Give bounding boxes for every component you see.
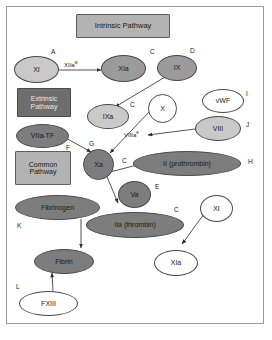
node-xia-top: XIa <box>101 55 146 82</box>
node-fibrinogen-label: Fibrinogen <box>41 204 74 211</box>
extrinsic-pathway-box: Extrinsic Pathway <box>17 88 71 117</box>
node-xa-label: Xa <box>94 161 103 168</box>
edge-label-viiia-text: VIIIa <box>124 132 136 138</box>
node-vwf-label: vWF <box>216 97 230 104</box>
node-xia-top-label: XIa <box>118 65 129 72</box>
node-prothrombin-label: II (prothrombin) <box>163 160 211 167</box>
node-xi-label: XI <box>33 66 40 73</box>
edge-thrombin-to-xia <box>182 213 205 244</box>
node-ix: IX <box>157 55 197 81</box>
edge-label-xiia-text: XIIa <box>64 62 75 68</box>
node-vwf: vWF <box>202 89 244 113</box>
node-xa: Xa <box>83 149 114 180</box>
annotation-a: A <box>51 48 56 55</box>
edge-label-xiia-sup: B <box>75 60 78 65</box>
edge-prothrombin-to-xa <box>110 165 137 172</box>
node-fxiii: FXIII <box>19 291 78 316</box>
node-viia-tf: VIIa-TF <box>16 124 69 148</box>
extrinsic-pathway-label: Extrinsic Pathway <box>20 95 68 110</box>
edge-label-xiia: XIIaB <box>64 60 77 68</box>
annotation-g: G <box>89 140 94 147</box>
node-xia-bottom: XIa <box>154 250 198 276</box>
node-thrombin: IIa (thrombin) <box>86 212 184 238</box>
coagulation-cascade-diagram: Intrinsic Pathway Extrinsic Pathway Comm… <box>0 0 272 340</box>
node-fibrinogen: Fibrinogen <box>15 195 100 220</box>
annotation-k: K <box>17 222 22 229</box>
node-viii-label: VIII <box>213 125 224 132</box>
annotation-f: F <box>66 144 70 151</box>
annotation-c2: C <box>130 101 135 108</box>
node-fibrin: Fibrin <box>34 249 94 274</box>
node-ix-label: IX <box>174 64 181 71</box>
node-xi-right-label: XI <box>213 205 220 212</box>
annotation-h: H <box>248 158 253 165</box>
node-fibrin-label: Fibrin <box>55 258 73 265</box>
annotation-i: I <box>246 90 248 97</box>
edge-fxiii-to-fibrin <box>52 273 53 291</box>
common-pathway-box: Common Pathway <box>15 151 71 185</box>
node-xia-bottom-label: XIa <box>171 259 182 266</box>
node-prothrombin: II (prothrombin) <box>133 151 241 176</box>
node-ixa: IXa <box>87 104 129 129</box>
annotation-e: E <box>155 183 160 190</box>
intrinsic-pathway-box: Intrinsic Pathway <box>76 14 170 38</box>
node-x-label: X <box>160 105 165 112</box>
annotation-c1: C <box>150 48 155 55</box>
edge-label-viiia-sup: E <box>136 130 139 135</box>
node-viia-tf-label: VIIa-TF <box>31 132 54 139</box>
node-xi-right: XI <box>200 195 233 222</box>
annotation-j: J <box>246 121 249 128</box>
common-pathway-label: Common Pathway <box>19 161 67 176</box>
node-viii: VIII <box>195 116 241 141</box>
node-thrombin-label: IIa (thrombin) <box>114 221 156 228</box>
intrinsic-pathway-label: Intrinsic Pathway <box>95 22 152 30</box>
node-x: X <box>148 94 177 123</box>
annotation-d: D <box>190 47 195 54</box>
node-va: Va <box>118 181 151 208</box>
node-va-label: Va <box>130 191 138 198</box>
annotation-c4: C <box>174 206 179 213</box>
node-fxiii-label: FXIII <box>41 300 56 307</box>
annotation-l: L <box>16 283 20 290</box>
node-ixa-label: IXa <box>103 113 114 120</box>
annotation-c3: C <box>122 157 127 164</box>
node-xi: XI <box>14 56 59 83</box>
edge-label-viiia: VIIIaE <box>124 130 139 138</box>
